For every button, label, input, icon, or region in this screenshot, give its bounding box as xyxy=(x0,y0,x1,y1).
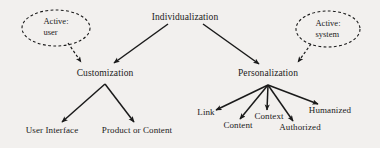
node-product-or-content: Product or Content xyxy=(102,126,172,135)
node-customization: Customization xyxy=(77,69,134,79)
annotation-active-system-line2: system xyxy=(315,29,340,40)
edge-root-to-customization xyxy=(114,24,168,63)
annotation-active-system: Active: system xyxy=(315,18,340,39)
node-content: Content xyxy=(223,121,252,130)
annotation-active-user-line2: user xyxy=(43,27,68,38)
node-humanized: Humanized xyxy=(309,106,351,115)
diagram-canvas: Active: user Active: system Individualiz… xyxy=(0,0,380,148)
edge-customization-to-user-interface xyxy=(62,84,105,122)
annotation-active-user: Active: user xyxy=(43,16,68,37)
edge-root-to-personalization xyxy=(203,24,259,64)
node-link: Link xyxy=(197,108,214,117)
edge-personalization-to-link xyxy=(216,85,268,110)
annotation-active-system-line1: Active: xyxy=(315,18,340,28)
edge-customization-to-product-or-content xyxy=(105,84,134,122)
edge-active-user-to-customization xyxy=(68,43,81,62)
node-individualization: Individualization xyxy=(152,13,219,23)
edge-active-system-to-personalization xyxy=(298,44,311,62)
annotation-active-user-line1: Active: xyxy=(43,16,68,26)
node-user-interface: User Interface xyxy=(26,126,79,135)
edge-personalization-to-context xyxy=(267,85,268,110)
node-context: Context xyxy=(254,112,283,121)
node-authorized: Authorized xyxy=(279,123,321,132)
node-personalization: Personalization xyxy=(238,69,298,79)
